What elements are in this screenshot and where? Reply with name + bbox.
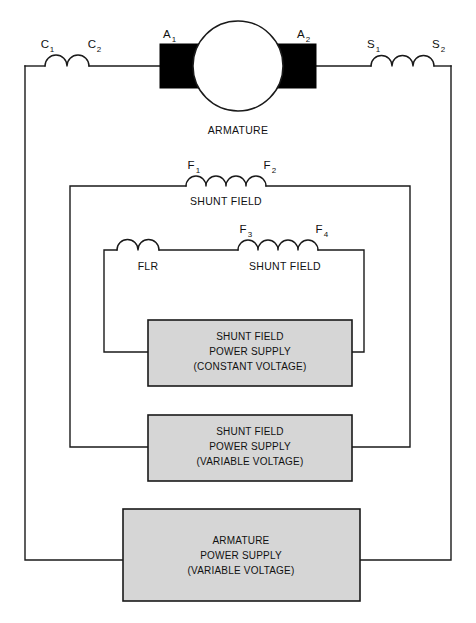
label-s1-letter: S xyxy=(367,38,375,50)
label-c2-sub: 2 xyxy=(97,45,102,54)
supply-constant-line1: SHUNT FIELD xyxy=(216,331,284,342)
wire-f1-left-branch xyxy=(70,186,186,447)
label-f2-letter: F xyxy=(263,159,270,171)
wire-outer-right xyxy=(360,66,451,560)
label-a2-sub: 2 xyxy=(306,35,311,44)
series-coil-arcs xyxy=(371,56,434,66)
label-f3-sub: 3 xyxy=(248,230,253,239)
shunt-field-1-coil-arcs xyxy=(186,176,266,186)
label-a1-sub: 1 xyxy=(172,35,177,44)
label-f1-sub: 1 xyxy=(196,166,201,175)
label-s1: S 1 xyxy=(367,38,381,54)
wire-f2-right-branch xyxy=(266,186,410,447)
supply-variable-line2: POWER SUPPLY xyxy=(209,441,291,452)
label-c1-letter: C xyxy=(41,38,50,50)
shunt-field-2-caption: SHUNT FIELD xyxy=(249,260,321,272)
supply-armature-line1: ARMATURE xyxy=(213,535,270,546)
label-c2-letter: C xyxy=(88,38,97,50)
label-s1-sub: 1 xyxy=(376,45,381,54)
flr-coil-arcs xyxy=(117,240,159,251)
label-f1: F 1 xyxy=(187,159,200,175)
armature-circle xyxy=(193,21,283,111)
label-c1-sub: 1 xyxy=(50,45,55,54)
label-f3: F 3 xyxy=(239,223,252,239)
flr-caption: FLR xyxy=(138,260,159,272)
shunt-field-f1-f2-loop xyxy=(70,176,410,447)
supply-variable-line3: (VARIABLE VOLTAGE) xyxy=(197,456,304,467)
supply-armature-line2: POWER SUPPLY xyxy=(200,550,282,561)
label-f3-letter: F xyxy=(239,223,246,235)
commutating-coil-arcs xyxy=(45,55,89,66)
label-f2: F 2 xyxy=(263,159,276,175)
label-s2-letter: S xyxy=(432,38,440,50)
label-a2: A 2 xyxy=(297,28,311,44)
label-f1-letter: F xyxy=(187,159,194,171)
label-a2-letter: A xyxy=(297,28,305,40)
label-f4-letter: F xyxy=(315,223,322,235)
armature-caption: ARMATURE xyxy=(208,124,269,136)
label-c2: C 2 xyxy=(88,38,102,54)
supply-constant-line3: (CONSTANT VOLTAGE) xyxy=(194,361,307,372)
armature-power-loop-wires xyxy=(25,66,451,560)
circuit-diagram: SHUNT FIELD POWER SUPPLY (CONSTANT VOLTA… xyxy=(0,0,476,623)
label-c1: C 1 xyxy=(41,38,55,54)
label-f4-sub: 4 xyxy=(324,230,329,239)
label-f4: F 4 xyxy=(315,223,328,239)
supply-armature-line3: (VARIABLE VOLTAGE) xyxy=(188,565,295,576)
shunt-field-1-caption: SHUNT FIELD xyxy=(190,195,262,207)
supply-box-armature-group: ARMATURE POWER SUPPLY (VARIABLE VOLTAGE) xyxy=(123,509,360,601)
armature-assembly xyxy=(160,21,316,111)
circuit-svg: SHUNT FIELD POWER SUPPLY (CONSTANT VOLTA… xyxy=(0,0,476,623)
supply-box-shunt-variable-group: SHUNT FIELD POWER SUPPLY (VARIABLE VOLTA… xyxy=(148,415,352,481)
label-a1: A 1 xyxy=(163,28,177,44)
wire-outer-left xyxy=(25,66,123,560)
supply-box-shunt-constant-group: SHUNT FIELD POWER SUPPLY (CONSTANT VOLTA… xyxy=(148,320,352,386)
shunt-field-2-coil-arcs xyxy=(238,240,318,250)
label-s2: S 2 xyxy=(432,38,446,54)
supply-constant-line2: POWER SUPPLY xyxy=(209,346,291,357)
label-a1-letter: A xyxy=(163,28,171,40)
label-f2-sub: 2 xyxy=(272,166,277,175)
label-s2-sub: 2 xyxy=(441,45,446,54)
supply-variable-line1: SHUNT FIELD xyxy=(216,426,284,437)
